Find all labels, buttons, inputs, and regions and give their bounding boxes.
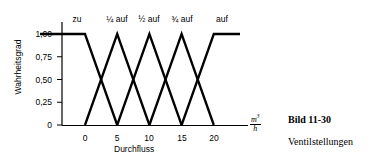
membership-curve-auf	[182, 34, 240, 125]
membership-curve-dreiviertel-auf	[149, 34, 213, 125]
membership-curve-halb-auf	[117, 34, 181, 125]
x-tick-label-10: 10	[134, 133, 164, 143]
membership-curve-viertel-auf	[85, 34, 149, 125]
set-label-auf: auf	[197, 14, 247, 24]
x-axis-title: Durchfluss	[114, 144, 154, 154]
y-axis-ticks	[57, 34, 62, 125]
x-tick-label-0: 0	[70, 133, 100, 143]
y-tick-label-025: 0,25	[14, 97, 52, 107]
x-tick-label-15: 15	[167, 133, 197, 143]
x-tick-label-20: 20	[199, 133, 229, 143]
y-tick-label-075: 0,75	[14, 52, 52, 62]
figure-container: Wahrheitsgrad 1,00 0,75 0,50 0,25 0 0 5 …	[0, 0, 388, 168]
figure-caption-title: Bild 11-30	[288, 114, 331, 125]
x-axis-unit-exponent: 3	[257, 113, 260, 119]
figure-caption-subtitle: Ventilstellungen	[288, 136, 353, 147]
y-tick-label-1: 1,00	[14, 29, 52, 39]
x-axis-unit: m3 h	[250, 114, 261, 133]
y-axis-title: Wahrheitsgrad	[13, 27, 23, 107]
y-tick-label-050: 0,50	[14, 75, 52, 85]
x-tick-label-5: 5	[102, 133, 132, 143]
y-tick-label-0: 0	[14, 120, 52, 130]
x-axis-unit-denominator: h	[250, 125, 261, 133]
